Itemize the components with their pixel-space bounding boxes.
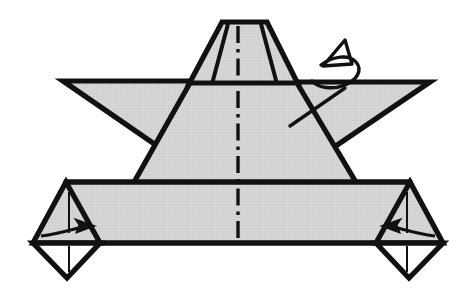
origami-diagram <box>0 0 475 307</box>
origami-figure-svg <box>0 0 475 307</box>
